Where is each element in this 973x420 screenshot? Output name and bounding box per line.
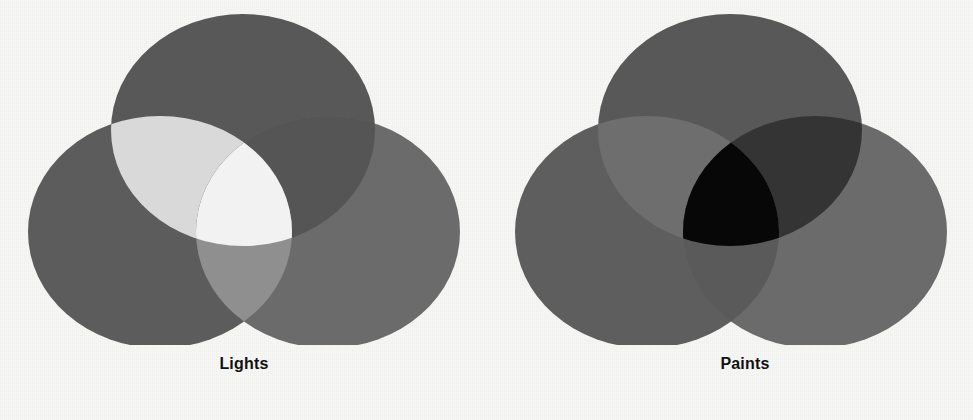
venn-diagram-lights <box>0 0 486 345</box>
figure-paints: Paints <box>487 0 973 420</box>
figure-caption-lights: Lights <box>0 355 486 373</box>
figure-lights: Lights <box>0 0 486 420</box>
figure-caption-paints: Paints <box>487 355 973 373</box>
venn-diagram-paints <box>487 0 973 345</box>
